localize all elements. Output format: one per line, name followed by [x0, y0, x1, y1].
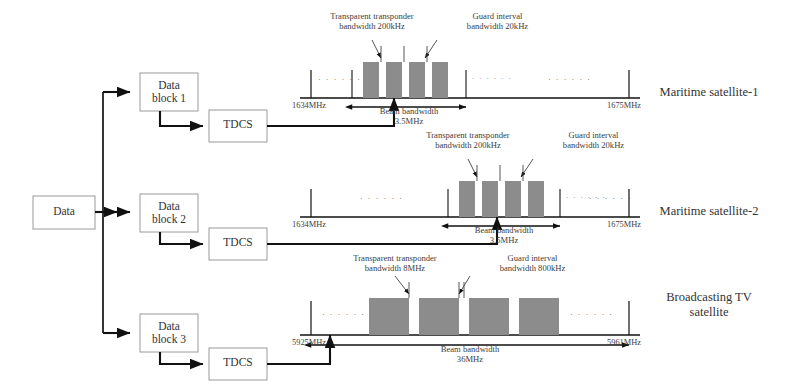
data-source-label: Data	[33, 205, 95, 218]
spectrum-2-transponder-bar	[459, 181, 475, 217]
spectrum-3-guard-callout: Guard interval bandwidth 800kHz	[470, 253, 595, 274]
spectrum-3-transponder-bar	[519, 298, 559, 335]
spectrum-2-guard-callout: Guard interval bandwidth 20kHz	[536, 130, 651, 151]
spectrum-2-freq-end: 1675MHz	[607, 220, 641, 229]
spectrum-2-transponder-leader	[468, 159, 477, 177]
spectrum-2-freq-start: 1634MHz	[292, 220, 326, 229]
spectrum-3-beam-label: Beam bandwidth	[380, 344, 560, 354]
tdcs-2-label: TDCS	[209, 236, 267, 249]
spectrum-1-freq-end: 1675MHz	[607, 101, 641, 110]
spectrum-2-beam-value: 3.5MHz	[448, 235, 560, 245]
spectrum-3-beam-value: 36MHz	[380, 354, 560, 364]
spectrum-1-guard-callout: Guard interval bandwidth 20kHz	[440, 11, 555, 32]
spectrum-1-transponder-bar	[386, 62, 402, 98]
tdcs-3-label: TDCS	[209, 356, 267, 369]
data-block-1-label: Data block 1	[140, 79, 198, 105]
spectrum-2-ellipsis-right: · · · · · ·	[589, 194, 633, 203]
spectrum-2-transponder-bar	[528, 181, 544, 217]
spectrum-3-transponder-bar	[369, 298, 409, 335]
spectrum-3-ellipsis-left: · · · · · ·	[322, 310, 366, 319]
spectrum-3-guard-leader	[459, 276, 470, 294]
spectrum-3-transponder-bar	[469, 298, 509, 335]
spectrum-3-freq-start: 5925MHz	[292, 338, 326, 347]
satellite-label-3: Broadcasting TV satellite	[634, 290, 784, 321]
spectrum-1-ellipsis-mid: · · · · · ·	[472, 75, 512, 83]
block2-to-tdcs2-arrow	[160, 232, 203, 244]
spectrum-1-transponder-bar	[363, 62, 379, 98]
spectrum-3-transponder-callout: Transparent transponder bandwidth 8MHz	[320, 253, 470, 274]
data-block-2-label: Data block 2	[140, 200, 198, 226]
block3-to-tdcs3-arrow	[160, 352, 203, 364]
tdcs-1-label: TDCS	[209, 118, 267, 131]
spectrum-1-transponder-bar	[409, 62, 425, 98]
spectrum-3-ellipsis-right: · · · · · ·	[570, 310, 614, 319]
spectrum-2-transponder-bar	[482, 181, 498, 217]
spectrum-2-transponder-callout: Transparent transponder bandwidth 200kHz	[393, 130, 543, 151]
spectrum-1-beam-label: Beam bandwidth	[352, 106, 466, 116]
spectrum-3-transponder-leader	[395, 276, 409, 294]
spectrum-1-beam-value: 3.5MHz	[352, 116, 466, 126]
spectrum-2-transponder-bar	[505, 181, 521, 217]
spectrum-2-ellipsis-left: · · · · · ·	[360, 194, 404, 203]
satellite-label-1: Maritime satellite-1	[634, 85, 784, 100]
spectrum-3-freq-end: 5961MHz	[607, 338, 641, 347]
satellite-label-2: Maritime satellite-2	[634, 204, 784, 219]
block1-to-tdcs1-arrow	[160, 111, 203, 126]
spectrum-1-freq-start: 1634MHz	[292, 101, 326, 110]
spectrum-diagram-2	[300, 159, 640, 226]
spectrum-3-transponder-bar	[419, 298, 459, 335]
spectrum-2-beam-label: Beam bandwidth	[448, 225, 560, 235]
spectrum-1-transponder-callout: Transparent transponder bandwidth 200kHz	[297, 11, 447, 32]
spectrum-1-ellipsis-right: · · · · · ·	[548, 75, 592, 84]
spectrum-1-transponder-leader	[372, 40, 381, 58]
data-block-3-label: Data block 3	[140, 320, 198, 346]
spectrum-diagram-1	[300, 40, 640, 107]
spectrum-1-transponder-bar	[432, 62, 448, 98]
spectrum-1-ellipsis-left: · · · · · ·	[318, 75, 362, 84]
